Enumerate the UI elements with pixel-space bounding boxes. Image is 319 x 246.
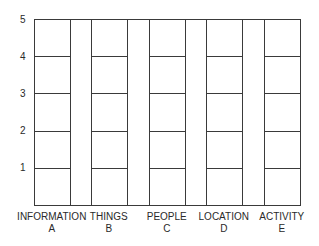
y-tick-label: 2 — [20, 125, 26, 136]
columns — [34, 20, 300, 206]
column-box — [35, 20, 71, 206]
column-box — [265, 20, 301, 206]
category-name-label: THINGS — [90, 211, 128, 222]
category-name-label: INFORMATION — [17, 211, 86, 222]
category-letter-label: E — [278, 223, 285, 234]
y-tick-label: 4 — [20, 51, 26, 62]
column-information — [35, 20, 71, 206]
y-axis-ticks: 12345 — [20, 14, 26, 174]
category-name-label: PEOPLE — [147, 211, 187, 222]
column-people — [150, 20, 186, 206]
category-labels: INFORMATIONATHINGSBPEOPLECLOCATIONDACTIV… — [17, 211, 304, 234]
category-letter-label: A — [48, 223, 55, 234]
column-box — [92, 20, 128, 206]
category-letter-label: C — [163, 223, 170, 234]
column-activity — [265, 20, 301, 206]
column-box — [150, 20, 186, 206]
category-name-label: ACTIVITY — [259, 211, 304, 222]
y-tick-label: 3 — [20, 88, 26, 99]
y-tick-label: 5 — [20, 14, 26, 25]
column-things — [92, 20, 128, 206]
hierarchy-column-diagram: 12345 INFORMATIONATHINGSBPEOPLECLOCATION… — [0, 0, 319, 246]
category-letter-label: D — [220, 223, 227, 234]
column-box — [207, 20, 243, 206]
category-letter-label: B — [105, 223, 112, 234]
y-tick-label: 1 — [20, 162, 26, 173]
column-location — [207, 20, 243, 206]
category-name-label: LOCATION — [199, 211, 249, 222]
